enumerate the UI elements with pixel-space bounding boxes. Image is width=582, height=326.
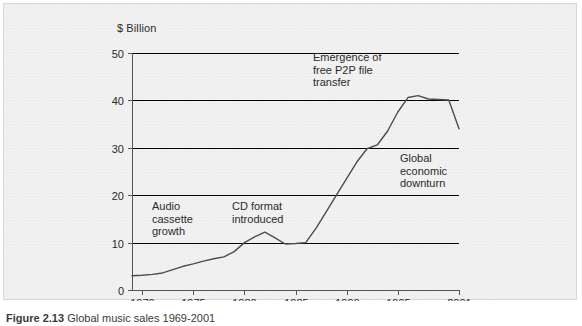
ytick-label-20: 20 [112,190,124,202]
ytick-label-30: 30 [112,143,124,155]
xtick-label-1970: 1970 [130,297,154,301]
figure-card: $ Billion 01020304050 197019751980198519… [3,3,577,300]
annotation-cd-format-introduced: CD format introduced [232,200,283,225]
annotation-audio-cassette-growth: Audio cassette growth [152,200,193,238]
ytick-label-40: 40 [112,95,124,107]
ytick-label-50: 50 [112,48,124,60]
xtick-label-1995: 1995 [386,297,410,301]
xtick-label-1980: 1980 [232,297,256,301]
annotation-global-economic-downturn: Global economic downturn [400,152,447,190]
ytick-label-10: 10 [112,238,124,250]
ytick-label-0: 0 [118,285,124,297]
xtick-label-1990: 1990 [335,297,359,301]
figure-caption: Figure 2.13 Global music sales 1969-2001 [6,312,215,324]
y-axis-tick-labels: 01020304050 [112,48,124,297]
line-chart-plot: 01020304050 1970197519801985199019952001 [4,4,578,301]
xtick-label-1985: 1985 [284,297,308,301]
annotation-p2p-file-transfer: Emergence of free P2P file transfer [313,51,381,89]
xtick-label-1975: 1975 [181,297,205,301]
figure-caption-number: Figure 2.13 [6,312,64,324]
figure-caption-text: Global music sales 1969-2001 [67,312,215,324]
xtick-label-2001: 2001 [447,297,471,301]
x-axis-tick-labels: 1970197519801985199019952001 [130,297,471,301]
